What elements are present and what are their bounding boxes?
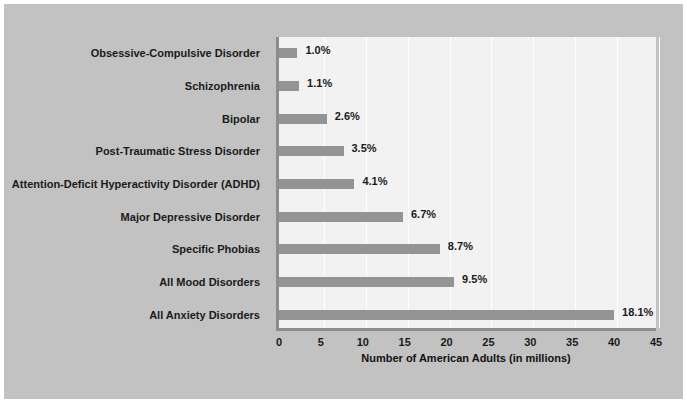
x-tick-label: 5 xyxy=(306,334,336,350)
bar[interactable] xyxy=(279,212,403,222)
bar-value-label: 1.0% xyxy=(305,43,330,57)
bar[interactable] xyxy=(279,81,299,91)
x-tick-label: 40 xyxy=(599,334,629,350)
bar-row: 4.1% xyxy=(279,171,656,197)
bar-value-label: 8.7% xyxy=(448,239,473,253)
bar[interactable] xyxy=(279,244,440,254)
bar-row: 6.7% xyxy=(279,204,656,230)
bar[interactable] xyxy=(279,179,354,189)
bar[interactable] xyxy=(279,310,614,320)
gridline xyxy=(659,37,660,328)
category-label: All Mood Disorders xyxy=(159,275,260,289)
bar[interactable] xyxy=(279,277,454,287)
bar-value-label: 2.6% xyxy=(335,109,360,123)
bar-row: 1.1% xyxy=(279,73,656,99)
category-axis-labels: Obsessive-Compulsive DisorderSchizophren… xyxy=(4,37,268,331)
bar-row: 8.7% xyxy=(279,236,656,262)
x-tick-label: 0 xyxy=(264,334,294,350)
category-label: Attention-Deficit Hyperactivity Disorder… xyxy=(12,177,260,191)
bar-value-label: 18.1% xyxy=(622,305,653,319)
bar-series: 1.0%1.1%2.6%3.5%4.1%6.7%8.7%9.5%18.1% xyxy=(279,37,656,328)
category-label: Obsessive-Compulsive Disorder xyxy=(91,46,260,60)
x-tick-label: 15 xyxy=(390,334,420,350)
x-tick-label: 45 xyxy=(641,334,671,350)
x-tick-label: 25 xyxy=(473,334,503,350)
chart-figure: Obsessive-Compulsive DisorderSchizophren… xyxy=(4,4,683,399)
bar-value-label: 9.5% xyxy=(462,272,487,286)
category-label: Major Depressive Disorder xyxy=(121,210,260,224)
bar-row: 1.0% xyxy=(279,40,656,66)
bar-value-label: 1.1% xyxy=(307,76,332,90)
category-label: All Anxiety Disorders xyxy=(149,308,260,322)
category-label: Specific Phobias xyxy=(172,242,260,256)
x-tick-label: 30 xyxy=(515,334,545,350)
x-tick-label: 35 xyxy=(557,334,587,350)
category-label: Post-Traumatic Stress Disorder xyxy=(96,144,260,158)
x-axis-title: Number of American Adults (in millions) xyxy=(276,352,656,364)
bar[interactable] xyxy=(279,114,327,124)
x-axis-ticks: 051015202530354045 xyxy=(276,334,656,354)
bar-row: 3.5% xyxy=(279,138,656,164)
bar[interactable] xyxy=(279,146,344,156)
category-label: Bipolar xyxy=(222,112,260,126)
x-tick-label: 10 xyxy=(348,334,378,350)
bar-row: 18.1% xyxy=(279,302,656,328)
bar-row: 2.6% xyxy=(279,106,656,132)
bar[interactable] xyxy=(279,48,297,58)
x-tick-label: 20 xyxy=(432,334,462,350)
bar-value-label: 4.1% xyxy=(362,174,387,188)
category-label: Schizophrenia xyxy=(185,79,260,93)
bar-value-label: 3.5% xyxy=(352,141,377,155)
plot-area: 1.0%1.1%2.6%3.5%4.1%6.7%8.7%9.5%18.1% xyxy=(276,37,656,331)
bar-value-label: 6.7% xyxy=(411,207,436,221)
bar-row: 9.5% xyxy=(279,269,656,295)
